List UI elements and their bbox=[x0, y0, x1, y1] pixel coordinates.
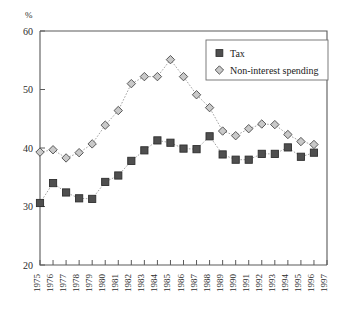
data-point bbox=[193, 146, 200, 153]
data-point bbox=[179, 72, 187, 80]
marker-diamond-non-interest-spending bbox=[218, 127, 226, 135]
x-tick-label: 1993 bbox=[267, 274, 277, 293]
x-tick-label: 1980 bbox=[97, 274, 107, 293]
data-point bbox=[102, 178, 109, 185]
data-point bbox=[62, 189, 69, 196]
data-point bbox=[180, 145, 187, 152]
data-point bbox=[36, 199, 43, 206]
data-point bbox=[284, 130, 292, 138]
legend: TaxNon-interest spending bbox=[206, 40, 328, 80]
data-point bbox=[245, 124, 253, 132]
x-tick-label: 1992 bbox=[254, 274, 264, 292]
marker-square-tax bbox=[258, 150, 265, 157]
data-point bbox=[258, 150, 265, 157]
y-tick-label: 20 bbox=[23, 260, 33, 271]
data-point bbox=[49, 146, 57, 154]
data-point bbox=[101, 121, 109, 129]
data-point bbox=[232, 156, 239, 163]
x-tick-label: 1995 bbox=[293, 274, 303, 293]
x-tick-label: 1994 bbox=[280, 274, 290, 293]
data-point bbox=[141, 147, 148, 154]
data-point bbox=[140, 72, 148, 80]
marker-square-tax bbox=[76, 195, 83, 202]
data-point bbox=[153, 72, 161, 80]
data-point bbox=[88, 140, 96, 148]
data-point bbox=[271, 120, 279, 128]
x-tick-label: 1986 bbox=[176, 274, 186, 293]
y-tick-label: 50 bbox=[23, 84, 33, 95]
data-point bbox=[128, 157, 135, 164]
marker-square-tax bbox=[62, 189, 69, 196]
marker-square-tax bbox=[310, 149, 317, 156]
data-point bbox=[258, 120, 266, 128]
marker-square-tax bbox=[154, 137, 161, 144]
y-tick-label: 60 bbox=[23, 26, 33, 37]
data-point bbox=[297, 153, 304, 160]
legend-marker-square-tax bbox=[216, 50, 223, 57]
data-point bbox=[310, 149, 317, 156]
data-point bbox=[284, 144, 291, 151]
marker-diamond-non-interest-spending bbox=[49, 146, 57, 154]
data-point bbox=[219, 151, 226, 158]
marker-square-tax bbox=[245, 156, 252, 163]
marker-diamond-non-interest-spending bbox=[310, 140, 318, 148]
data-point bbox=[36, 148, 44, 156]
x-tick-label: 1997 bbox=[319, 274, 329, 293]
data-point bbox=[75, 148, 83, 156]
marker-square-tax bbox=[180, 145, 187, 152]
marker-diamond-non-interest-spending bbox=[101, 121, 109, 129]
data-point bbox=[154, 137, 161, 144]
marker-square-tax bbox=[284, 144, 291, 151]
data-point bbox=[218, 127, 226, 135]
marker-square-tax bbox=[297, 153, 304, 160]
data-point bbox=[127, 79, 135, 87]
marker-square-tax bbox=[49, 180, 56, 187]
marker-square-tax bbox=[141, 147, 148, 154]
marker-square-tax bbox=[128, 157, 135, 164]
data-point bbox=[245, 156, 252, 163]
marker-square-tax bbox=[89, 195, 96, 202]
marker-square-tax bbox=[36, 199, 43, 206]
marker-diamond-non-interest-spending bbox=[258, 120, 266, 128]
x-tick-label: 1977 bbox=[58, 274, 68, 293]
x-tick-label: 1979 bbox=[84, 274, 94, 293]
marker-square-tax bbox=[206, 133, 213, 140]
y-axis-unit-label: % bbox=[25, 10, 33, 20]
marker-diamond-non-interest-spending bbox=[245, 124, 253, 132]
marker-diamond-non-interest-spending bbox=[166, 55, 174, 63]
marker-square-tax bbox=[271, 150, 278, 157]
data-point bbox=[76, 195, 83, 202]
marker-square-tax bbox=[219, 151, 226, 158]
y-tick-label: 30 bbox=[23, 201, 33, 212]
x-tick-label: 1985 bbox=[162, 274, 172, 293]
data-point bbox=[167, 139, 174, 146]
marker-diamond-non-interest-spending bbox=[297, 137, 305, 145]
legend-label-tax: Tax bbox=[230, 48, 245, 59]
marker-square-tax bbox=[193, 146, 200, 153]
series-line-tax bbox=[40, 136, 314, 203]
marker-square-tax bbox=[115, 172, 122, 179]
data-point bbox=[115, 172, 122, 179]
x-tick-label: 1987 bbox=[189, 274, 199, 293]
marker-diamond-non-interest-spending bbox=[271, 120, 279, 128]
data-point bbox=[166, 55, 174, 63]
y-tick-label: 40 bbox=[23, 143, 33, 154]
x-tick-label: 1983 bbox=[136, 274, 146, 293]
x-tick-label: 1989 bbox=[215, 274, 225, 293]
chart-container: %203040506019751976197719781979198019811… bbox=[0, 0, 349, 309]
x-tick-label: 1991 bbox=[241, 274, 251, 292]
x-tick-label: 1975 bbox=[32, 274, 42, 293]
data-point bbox=[231, 132, 239, 140]
x-tick-label: 1996 bbox=[306, 274, 316, 293]
marker-square-tax bbox=[232, 156, 239, 163]
x-tick-label: 1990 bbox=[228, 274, 238, 293]
data-point bbox=[310, 140, 318, 148]
x-tick-label: 1982 bbox=[123, 274, 133, 292]
marker-diamond-non-interest-spending bbox=[88, 140, 96, 148]
x-tick-label: 1984 bbox=[149, 274, 159, 293]
line-chart: %203040506019751976197719781979198019811… bbox=[0, 0, 349, 309]
marker-diamond-non-interest-spending bbox=[153, 72, 161, 80]
x-tick-label: 1981 bbox=[110, 274, 120, 292]
x-tick-label: 1976 bbox=[45, 274, 55, 293]
marker-diamond-non-interest-spending bbox=[140, 72, 148, 80]
